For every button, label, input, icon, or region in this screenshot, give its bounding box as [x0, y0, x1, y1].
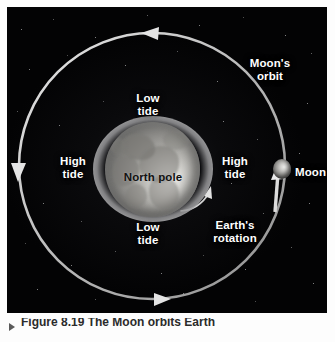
caption-text: Figure 8.19 The Moon orbits Earth [21, 318, 215, 329]
earth-group [93, 111, 213, 227]
orbit-arrow-bottom-icon [154, 293, 171, 306]
space-background-panel: Moon's orbit Low tide High tide North po… [7, 7, 327, 313]
caption-marker-icon [9, 323, 15, 331]
moon-sphere [273, 159, 291, 179]
earth-rim-highlight [105, 122, 200, 217]
orbit-arrow-left-icon [11, 163, 26, 182]
figure-caption: Figure 8.19 The Moon orbits Earth [7, 318, 327, 342]
orbit-arrow-top-icon [141, 27, 159, 40]
tides-diagram-figure: Moon's orbit Low tide High tide North po… [0, 0, 335, 342]
